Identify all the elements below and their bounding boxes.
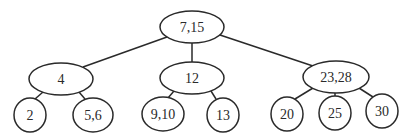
node-label: 5,6 xyxy=(84,108,102,123)
edge-root-n2328 xyxy=(220,35,313,66)
tree-node-n2328: 23,28 xyxy=(303,61,369,93)
nodes-group: 7,1541223,2825,69,1013202530 xyxy=(14,11,398,132)
tree-node-n2: 2 xyxy=(14,98,46,132)
edge-n2328-n20 xyxy=(295,88,313,99)
tree-node-n13: 13 xyxy=(207,98,239,132)
tree-node-n30: 30 xyxy=(366,94,398,128)
edge-root-n4 xyxy=(83,37,167,67)
tree-svg: 7,1541223,2825,69,1013202530 xyxy=(0,0,409,139)
tree-node-n25: 25 xyxy=(319,96,351,130)
node-label: 4 xyxy=(58,72,65,87)
tree-node-n20: 20 xyxy=(271,97,303,131)
node-label: 13 xyxy=(216,108,230,123)
tree-node-n56: 5,6 xyxy=(73,98,113,132)
tree-node-n4: 4 xyxy=(29,63,93,95)
tree-node-n910: 9,10 xyxy=(142,97,184,131)
edge-n2328-n30 xyxy=(359,88,373,97)
edge-n4-n56 xyxy=(79,92,85,99)
node-label: 9,10 xyxy=(151,107,176,122)
tree-node-n12: 12 xyxy=(160,62,224,94)
node-label: 30 xyxy=(375,104,389,119)
edge-n4-n2 xyxy=(35,92,43,99)
tree-diagram: 7,1541223,2825,69,1013202530 xyxy=(0,0,409,139)
edge-n12-n13 xyxy=(211,91,216,99)
node-label: 2 xyxy=(27,108,34,123)
node-label: 20 xyxy=(280,107,294,122)
tree-node-root: 7,15 xyxy=(160,11,224,43)
node-label: 12 xyxy=(185,71,199,86)
node-label: 7,15 xyxy=(180,20,205,35)
node-label: 23,28 xyxy=(320,70,352,85)
node-label: 25 xyxy=(328,106,342,121)
